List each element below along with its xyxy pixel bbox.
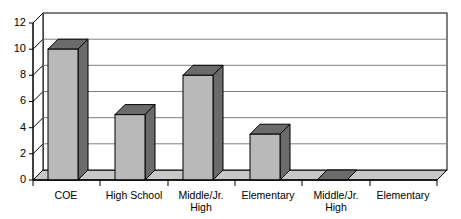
- bar-side-face: [145, 105, 155, 180]
- chart-y-ticks: [29, 23, 33, 180]
- y-tick-label-10: 10: [0, 43, 26, 54]
- chart-floor: [33, 170, 447, 180]
- x-label-line-2: High: [167, 201, 235, 213]
- x-label-line-1: Elementary: [369, 189, 437, 201]
- bar-side-face: [280, 124, 290, 180]
- bar-side-face: [213, 65, 223, 180]
- bar-elementary-1[interactable]: [250, 124, 290, 180]
- bar-front-face: [183, 75, 213, 180]
- x-label-line-1: Middle/Jr.: [302, 189, 370, 201]
- x-label-line-1: Middle/Jr.: [167, 189, 235, 201]
- chart-plot-area: [0, 0, 461, 219]
- x-category-label-coe: COE: [32, 189, 100, 201]
- y-tick-label-0: 0: [0, 174, 26, 185]
- bar-middle-jr-high-1[interactable]: [183, 65, 223, 180]
- x-category-label-middle-jr-high-1: Middle/Jr. High: [167, 189, 235, 213]
- x-category-label-elementary-2: Elementary: [369, 189, 437, 201]
- chart-x-ticks: [33, 180, 437, 186]
- y-tick-label-2: 2: [0, 148, 26, 159]
- x-category-label-high-school: High School: [100, 189, 168, 201]
- bar-high-school[interactable]: [115, 105, 155, 180]
- bar-coe[interactable]: [48, 39, 88, 180]
- y-tick-label-12: 12: [0, 17, 26, 28]
- y-tick-label-4: 4: [0, 122, 26, 133]
- x-label-line-1: COE: [32, 189, 100, 201]
- bar-front-face: [115, 115, 145, 180]
- x-category-label-elementary-1: Elementary: [234, 189, 302, 201]
- bar-front-face: [48, 49, 78, 180]
- y-tick-label-8: 8: [0, 69, 26, 80]
- y-tick-label-6: 6: [0, 95, 26, 106]
- bar-side-face: [78, 39, 88, 180]
- bar-chart: 12 10 8 6 4 2 0 COE High School Middle/J…: [0, 0, 461, 219]
- bar-front-face: [250, 134, 280, 180]
- x-label-line-1: Elementary: [234, 189, 302, 201]
- x-label-line-1: High School: [100, 189, 168, 201]
- x-label-line-2: High: [302, 201, 370, 213]
- x-category-label-middle-jr-high-2: Middle/Jr. High: [302, 189, 370, 213]
